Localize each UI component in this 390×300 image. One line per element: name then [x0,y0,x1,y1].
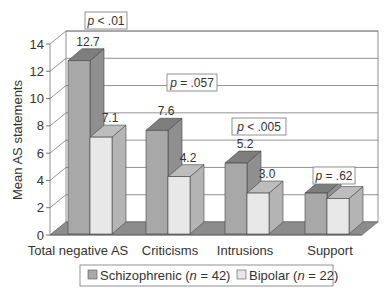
bar-front [168,177,190,234]
legend-swatch [237,270,246,279]
bar-front [90,137,112,234]
y-axis: 02468101214 [30,31,66,243]
value-label: 3.0 [259,167,276,181]
x-axis-labels: Total negative ASCriticismsIntrusionsSup… [28,243,353,258]
value-label: 5.2 [237,137,254,151]
y-tick-label: 0 [37,228,44,243]
axis-diagonal [50,86,66,99]
bar-front [225,163,247,234]
y-tick-label: 14 [30,37,44,52]
bar-front [305,193,327,234]
bar-front [146,130,168,234]
p-value-box: p = .62 [313,167,355,184]
legend-label: Schizophrenic (n = 42) [100,268,230,283]
legend-label: Bipolar (n = 22) [249,268,338,283]
category-label: Criticisms [142,243,199,258]
axis-diagonal [50,31,66,44]
legend: Schizophrenic (n = 42)Bipolar (n = 22) [80,265,338,286]
y-tick-label: 10 [30,91,44,106]
value-label: 12.7 [76,35,100,49]
value-label: 4.2 [180,151,197,165]
axis-diagonal [50,58,66,71]
bar-front [247,193,269,234]
axis-diagonal [50,195,66,208]
chart-canvas: 02468101214Mean AS statements12.77.17.64… [0,0,390,300]
p-value-box: p = .057 [167,74,217,91]
legend-swatch [88,270,97,279]
y-tick-label: 4 [37,173,44,188]
annotation-text: p = .62 [314,169,352,183]
legend-item: Schizophrenic (n = 42) [88,268,230,283]
annotation-text: p < .01 [86,14,124,28]
bar-front [68,61,90,234]
p-value-box: p < .01 [85,12,127,29]
bar-side [112,125,126,234]
category-label: Total negative AS [28,243,129,258]
bar-chart: 02468101214Mean AS statements12.77.17.64… [0,0,390,300]
category-label: Support [307,243,353,258]
y-axis-label: Mean AS statements [10,80,25,200]
category-label: Intrusions [217,243,274,258]
legend-item: Bipolar (n = 22) [237,268,338,283]
y-tick-label: 12 [30,64,44,79]
y-tick-label: 6 [37,146,44,161]
bar-front [327,199,349,234]
axis-diagonal [50,140,66,153]
p-value-box: p < .005 [232,118,286,135]
value-label: 7.6 [158,104,175,118]
y-tick-label: 8 [37,118,44,133]
annotation-text: p < .005 [236,120,281,134]
y-tick-label: 2 [37,200,44,215]
annotation-text: p = .057 [169,76,214,90]
value-label: 7.1 [102,111,119,125]
axis-diagonal [50,167,66,180]
axis-diagonal [50,113,66,126]
